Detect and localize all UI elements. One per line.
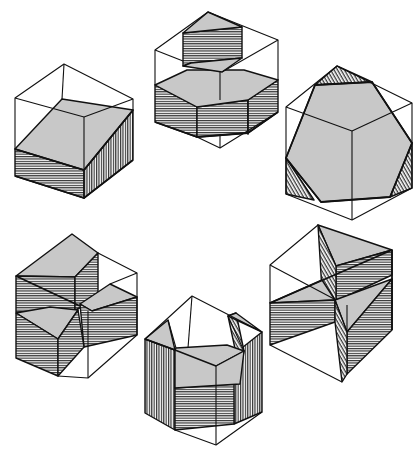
cube-bottom-left	[16, 234, 137, 378]
prism-left-face	[145, 339, 175, 430]
prism-front-face	[175, 384, 234, 430]
cube-bottom-center	[145, 296, 262, 445]
cube-edge	[188, 296, 192, 348]
cube-top-left	[15, 64, 133, 198]
cube-top-right	[286, 66, 412, 220]
cube-bottom-right	[270, 225, 392, 382]
hexagon-section	[286, 82, 412, 202]
cube-edge	[110, 273, 137, 284]
cube-edge	[62, 64, 64, 99]
wedge-left-front-face	[270, 300, 335, 345]
block-upper-left-face	[16, 276, 75, 312]
cube-top-center	[155, 12, 278, 148]
cube-sections-figure	[0, 0, 416, 461]
cube-edge	[270, 345, 342, 382]
cube-edge	[155, 50, 183, 61]
